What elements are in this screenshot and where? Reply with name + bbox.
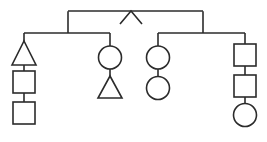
chevron-up-marker-icon: [120, 11, 142, 24]
node-square-male[interactable]: [13, 71, 35, 93]
node-square-male[interactable]: [13, 102, 35, 124]
branch-rightmost-lineage: [234, 33, 257, 127]
node-circle-female[interactable]: [99, 46, 122, 69]
node-square-male[interactable]: [234, 75, 256, 97]
branch-third-lineage: [147, 33, 170, 100]
top-connector-group: [68, 11, 203, 33]
node-triangle-unspecified[interactable]: [98, 76, 122, 98]
branch-leftmost-lineage: [12, 33, 36, 124]
node-circle-female[interactable]: [147, 46, 170, 69]
node-square-male[interactable]: [234, 44, 256, 66]
branch-second-lineage: [98, 33, 122, 98]
node-triangle-unspecified[interactable]: [12, 41, 36, 65]
node-circle-female[interactable]: [147, 77, 170, 100]
node-circle-female[interactable]: [234, 104, 257, 127]
pedigree-diagram: [0, 0, 267, 142]
